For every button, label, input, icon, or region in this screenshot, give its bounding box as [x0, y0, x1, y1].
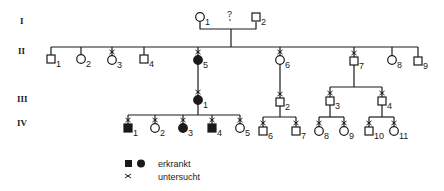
- male-square-icon: [47, 55, 55, 63]
- legend-affected-label: erkrankt: [158, 159, 191, 169]
- individual-iii-2: 2: [276, 92, 290, 112]
- individual-number: 1: [56, 59, 61, 69]
- individual-iii-1: 1: [194, 90, 208, 110]
- individual-iv-2: 2: [151, 118, 165, 138]
- individual-i-2: 2: [252, 13, 266, 27]
- uncertain-parent-marker: ?: [227, 9, 232, 19]
- individual-iv-11: 11: [390, 121, 409, 141]
- individual-ii-5: 5: [194, 50, 208, 70]
- individual-number: 3: [188, 128, 193, 138]
- individual-number: 8: [324, 131, 329, 141]
- individual-number: 6: [285, 60, 290, 70]
- individual-number: 9: [423, 61, 428, 71]
- female-circle-icon: [340, 127, 349, 136]
- legend-affected-male-icon: [125, 160, 132, 167]
- individual-number: 3: [335, 101, 340, 111]
- individual-iv-1: 1: [124, 118, 138, 138]
- male-square-icon: [140, 55, 148, 63]
- female-circle-icon: [390, 127, 399, 136]
- individual-number: 4: [149, 59, 154, 69]
- individual-ii-1: 1: [47, 55, 61, 69]
- individual-number: 4: [387, 101, 392, 111]
- legend-affected-female-icon: [137, 160, 145, 168]
- male-square-icon: [292, 127, 300, 135]
- legend: erkrankt untersucht: [125, 159, 201, 182]
- individual-iv-6: 6: [259, 121, 273, 141]
- affected-female-circle-icon: [194, 96, 203, 105]
- individual-iv-7: 7: [292, 121, 306, 141]
- male-square-icon: [350, 57, 358, 65]
- individual-ii-2: 2: [77, 55, 91, 69]
- affected-male-square-icon: [124, 124, 132, 132]
- female-circle-icon: [315, 127, 324, 136]
- individual-iv-9: 9: [340, 121, 354, 141]
- individual-iii-4: 4: [378, 91, 392, 111]
- individual-number: 1: [203, 100, 208, 110]
- individual-iv-8: 8: [315, 121, 329, 141]
- female-circle-icon: [276, 56, 285, 65]
- affected-female-circle-icon: [179, 124, 188, 133]
- individual-number: 6: [268, 131, 273, 141]
- individual-number: 4: [217, 128, 222, 138]
- male-square-icon: [365, 127, 373, 135]
- individual-ii-9: 9: [414, 57, 428, 71]
- individual-number: 2: [285, 102, 290, 112]
- generation-label-iii: III: [17, 94, 28, 104]
- individual-number: 1: [133, 128, 138, 138]
- generation-labels: I II III IV: [17, 16, 28, 128]
- individual-number: 2: [160, 128, 165, 138]
- individuals: 1212345678912341234567891011: [47, 13, 428, 141]
- individual-iii-3: 3: [326, 91, 340, 111]
- individual-i-1: 1: [196, 13, 210, 27]
- female-circle-icon: [388, 56, 397, 65]
- female-circle-icon: [236, 124, 245, 133]
- male-square-icon: [276, 98, 284, 106]
- legend-examined-label: untersucht: [158, 172, 201, 182]
- male-square-icon: [414, 57, 422, 65]
- affected-male-square-icon: [208, 124, 216, 132]
- individual-number: 10: [374, 131, 384, 141]
- individual-number: 2: [86, 59, 91, 69]
- individual-iv-10: 10: [365, 121, 384, 141]
- male-square-icon: [252, 13, 260, 21]
- generation-label-i: I: [20, 16, 24, 26]
- female-circle-icon: [108, 56, 117, 65]
- individual-ii-8: 8: [388, 56, 402, 70]
- individual-ii-3: 3: [108, 50, 122, 70]
- individual-number: 3: [117, 60, 122, 70]
- individual-iv-3: 3: [179, 118, 193, 138]
- individual-ii-6: 6: [276, 50, 290, 70]
- uncertain-dot: [229, 19, 231, 21]
- individual-number: 5: [203, 60, 208, 70]
- individual-number: 1: [205, 17, 210, 27]
- female-circle-icon: [196, 13, 205, 22]
- individual-number: 8: [397, 60, 402, 70]
- individual-ii-7: 7: [350, 51, 364, 71]
- individual-number: 7: [359, 61, 364, 71]
- female-circle-icon: [77, 55, 86, 64]
- pedigree-chart: I II III IV: [0, 0, 444, 191]
- individual-iv-4: 4: [208, 118, 222, 138]
- female-circle-icon: [151, 124, 160, 133]
- generation-label-iv: IV: [17, 118, 28, 128]
- male-square-icon: [326, 97, 334, 105]
- individual-number: 11: [399, 131, 408, 141]
- pedigree-lines: [51, 22, 418, 127]
- individual-number: 9: [349, 131, 354, 141]
- generation-label-ii: II: [18, 46, 26, 56]
- male-square-icon: [259, 127, 267, 135]
- affected-female-circle-icon: [194, 56, 203, 65]
- male-square-icon: [378, 97, 386, 105]
- individual-number: 7: [301, 131, 306, 141]
- individual-iv-5: 5: [236, 118, 250, 138]
- legend-examined-icon: [125, 174, 131, 178]
- individual-number: 2: [261, 17, 266, 27]
- individual-number: 5: [245, 128, 250, 138]
- individual-ii-4: 4: [140, 55, 154, 69]
